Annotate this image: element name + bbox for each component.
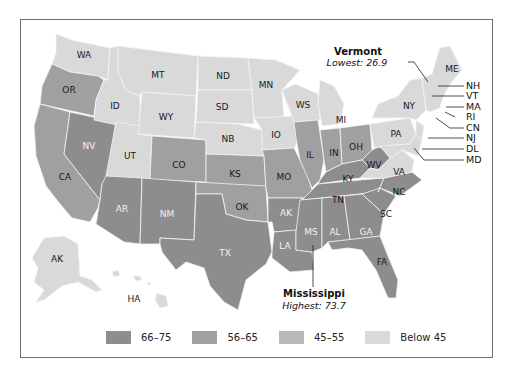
label-alaska: AK [51,254,64,264]
legend-label: 56–65 [227,332,257,343]
label-nc: NC [392,187,405,197]
leader-cn [436,118,464,128]
legend-label: 45–55 [314,332,344,343]
label-mn: MN [259,80,274,90]
label-in: IN [329,148,338,158]
us-map: WA OR CA NV ID MT WY UT CO AR NM ND SD N… [0,0,513,376]
state-ny[interactable] [372,78,426,120]
state-alaska[interactable] [32,236,102,302]
label-il: IL [306,150,314,160]
label-ms: MS [304,227,318,237]
label-ga: GA [359,227,373,237]
label-me: ME [445,64,459,74]
label-nv: NV [83,141,97,151]
legend-swatch [365,331,390,344]
label-vt: VT [466,90,478,101]
vermont-callout-sub: Lowest: 26.9 [327,57,388,68]
label-ca: CA [59,172,72,182]
label-ri: RI [466,111,475,122]
label-mo: MO [277,172,292,182]
label-id: ID [110,101,120,111]
leader-md [414,148,464,160]
label-tn: TN [331,195,344,205]
label-io: IO [271,130,281,140]
label-ar-az: AR [116,204,128,214]
label-ok: OK [236,202,250,212]
legend-item-45-55: 45–55 [279,331,344,344]
legend-item-56-65: 56–65 [192,331,257,344]
leader-ri [445,112,455,117]
label-nb: NB [222,134,235,144]
label-sc: SC [380,209,392,219]
label-pa: PA [390,129,402,139]
label-tx: TX [218,248,231,258]
label-va: VA [393,167,406,177]
label-dl: DL [466,143,479,154]
label-wy: WY [159,112,174,122]
label-oh: OH [349,142,363,152]
label-ky: KY [342,174,354,184]
label-fa: FA [377,257,388,267]
label-ks: KS [229,169,241,179]
label-hawaii: HA [128,294,142,304]
label-wv: WV [366,160,382,170]
label-nj: NJ [466,132,476,143]
state-ms[interactable] [296,198,322,252]
label-mi: MI [336,115,346,125]
label-mt: MT [151,70,165,80]
legend-label: 66–75 [141,332,171,343]
label-co: CO [172,160,185,170]
label-sd: SD [216,102,229,112]
legend-item-66-75: 66–75 [106,331,171,344]
label-md: MD [466,154,482,165]
label-or: OR [62,85,75,95]
state-new-england[interactable] [422,46,462,112]
label-ws: WS [296,100,311,110]
label-al: AL [329,227,340,237]
legend-swatch [279,331,304,344]
legend-swatch [192,331,217,344]
mississippi-callout-title: Mississippi [283,288,345,299]
vermont-callout-title: Vermont [334,46,382,57]
label-nd: ND [216,71,230,81]
label-ak-ar: AK [280,208,293,218]
label-ut: UT [124,151,137,161]
legend-label: Below 45 [400,332,446,343]
label-wa: WA [77,50,92,60]
label-ny: NY [403,101,416,111]
label-la: LA [279,241,291,251]
mississippi-callout-sub: Highest: 73.7 [282,300,346,311]
legend-item-below-45: Below 45 [365,331,446,344]
label-nm: NM [160,209,175,219]
legend: 66–75 56–65 45–55 Below 45 [106,330,467,344]
legend-swatch [106,331,131,344]
